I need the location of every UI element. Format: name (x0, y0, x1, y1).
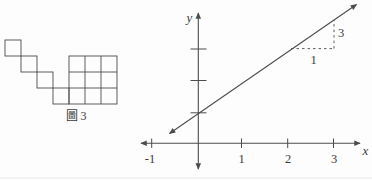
slope-rise-label: 3 (338, 26, 344, 40)
squares-figure (5, 40, 117, 104)
three-by-three-grid (69, 56, 117, 104)
staircase-square-1 (5, 40, 21, 56)
x-tick-label-1: 1 (238, 152, 244, 166)
scanned-figure-page: 圖 3 -1 1 2 3 y x (0, 0, 372, 181)
x-tick-label-2: 2 (285, 152, 291, 166)
staircase-square-3 (37, 72, 53, 88)
scan-artifact-band (0, 177, 372, 179)
grid-outline (69, 56, 117, 104)
slope-run-label: 1 (310, 53, 316, 67)
x-axis-label: x (362, 143, 369, 158)
graph-line (170, 5, 357, 134)
coordinate-plane: -1 1 2 3 y x 1 3 (141, 5, 369, 170)
staircase-square-2 (21, 56, 37, 72)
x-tick-label-3: 3 (331, 152, 337, 166)
y-axis-label: y (185, 10, 193, 25)
figure-caption: 圖 3 (66, 109, 87, 123)
figures-canvas: 圖 3 -1 1 2 3 y x (0, 0, 372, 181)
staircase-square-4 (53, 88, 69, 104)
x-tick-label-neg1: -1 (145, 152, 155, 166)
